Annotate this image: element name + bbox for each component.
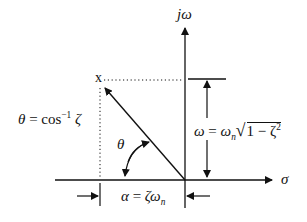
omega-eq: = (205, 123, 221, 139)
theta-angle-arc-upper (128, 142, 149, 162)
alpha-definition-label: α = ζωn (121, 189, 165, 204)
zeta-symbol: ζ (71, 111, 81, 127)
radicand-superscript: 2 (276, 122, 281, 132)
alpha-eq: = (129, 188, 145, 204)
omega-definition-label: ω = ωn√1 − ζ2 (194, 122, 281, 140)
omega-n-symbol-alpha: ω (150, 188, 161, 204)
alpha-symbol: α (121, 188, 129, 204)
omega-n-subscript-alpha: n (161, 197, 166, 207)
theta-angle-label: θ (117, 137, 124, 152)
sqrt-icon: √ (236, 120, 246, 140)
inverse-superscript: −1 (61, 110, 71, 120)
sigma-axis-label: σ (281, 172, 288, 187)
pole-marker: x (95, 71, 102, 85)
pole-vector-arrow (105, 88, 185, 180)
jw-axis-label: jω (177, 7, 192, 22)
theta-definition-label: θ = cos−1 ζ (18, 112, 81, 127)
radicand: 1 − ζ2 (247, 122, 281, 139)
theta-eq: = cos (25, 111, 61, 127)
radicand-text: 1 − ζ (247, 123, 277, 139)
s-plane-diagram: x jω σ θ = cos−1 ζ θ ω = ωn√1 − ζ2 α = ζ… (0, 0, 307, 222)
omega-n-symbol: ω (221, 123, 232, 139)
omega-symbol: ω (194, 123, 205, 139)
